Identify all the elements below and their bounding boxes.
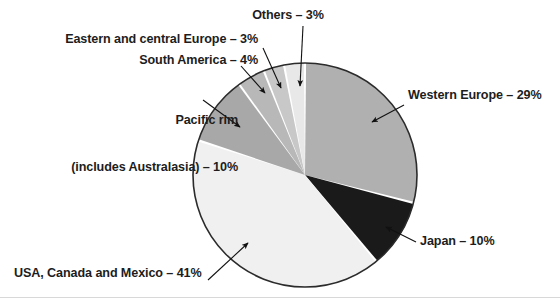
pie-chart-figure: Others – 3% Eastern and central Europe –… [0,0,560,306]
slice-label-south-america: South America – 4% [74,53,258,69]
slice-label-others: Others – 3% [218,8,358,24]
slice-label-usa-canada-mexico: USA, Canada and Mexico – 41% [14,266,242,282]
figure-baseline-rule [0,297,560,298]
slice-label-pacific-rim-line1: Pacific rim [6,113,238,129]
slice-label-eastern-and-central-europe: Eastern and central Europe – 3% [54,32,258,48]
slice-label-western-europe: Western Europe – 29% [408,88,558,104]
slice-label-japan: Japan – 10% [420,234,540,250]
slice-label-pacific-rim-line2: (includes Australasia) – 10% [6,160,238,176]
slice-label-pacific-rim: Pacific rim (includes Australasia) – 10% [6,82,238,206]
